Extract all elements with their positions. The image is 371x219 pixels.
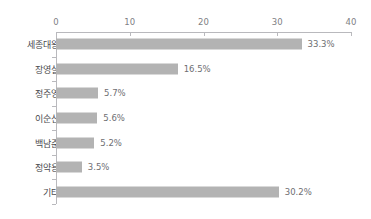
- bar: [56, 137, 94, 148]
- y-axis-tick: [52, 106, 56, 107]
- x-axis-tick-label: 30: [272, 17, 283, 27]
- bar-value-label: 33.3%: [308, 39, 335, 49]
- x-axis-tick: [130, 32, 131, 36]
- bar-value-label: 5.2%: [100, 138, 122, 148]
- bar-value-label: 5.6%: [103, 113, 125, 123]
- x-axis-tick-label: 40: [346, 17, 357, 27]
- bar-chart: 010203040 세종대왕33.3%장영실16.5%정주영5.7%이순신5.6…: [0, 0, 371, 219]
- y-axis-tick: [52, 57, 56, 58]
- chart-title: [0, 0, 371, 4]
- x-axis-tick: [277, 32, 278, 36]
- y-axis-tick: [52, 204, 56, 205]
- bar-value-label: 5.7%: [104, 88, 126, 98]
- bar: [56, 88, 98, 99]
- y-axis-tick: [52, 155, 56, 156]
- bar: [56, 162, 82, 173]
- bar: [56, 63, 178, 74]
- bar: [56, 113, 97, 124]
- bar-value-label: 30.2%: [285, 187, 312, 197]
- category-label: 세종대왕: [27, 38, 59, 51]
- x-axis-tick: [56, 32, 57, 36]
- bar-value-label: 3.5%: [88, 162, 110, 172]
- bar: [56, 186, 279, 197]
- bar-value-label: 16.5%: [184, 64, 211, 74]
- x-axis-tick-label: 10: [124, 17, 135, 27]
- bar: [56, 39, 302, 50]
- y-axis-tick: [52, 179, 56, 180]
- x-axis-tick-label: 0: [53, 17, 58, 27]
- x-axis-tick: [204, 32, 205, 36]
- x-axis-tick-label: 20: [198, 17, 209, 27]
- y-axis-tick: [52, 81, 56, 82]
- y-axis-tick: [52, 130, 56, 131]
- x-axis-tick: [351, 32, 352, 36]
